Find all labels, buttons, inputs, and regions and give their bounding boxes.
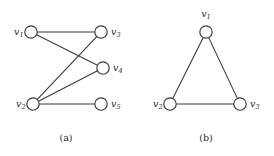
node-label-v2: v2 bbox=[153, 98, 163, 111]
graph-a: v1v2v3v4v5(a) bbox=[14, 26, 123, 143]
node-label-v1: v1 bbox=[201, 8, 211, 21]
edge-v1-v4 bbox=[37, 35, 98, 65]
node-label-v4: v4 bbox=[113, 62, 123, 75]
graph-b: v1v2v3(b) bbox=[153, 8, 260, 143]
node-v3 bbox=[95, 26, 107, 38]
node-label-v2: v2 bbox=[16, 98, 26, 111]
node-v5 bbox=[95, 98, 107, 110]
node-v2 bbox=[27, 98, 39, 110]
edge-v1-v2 bbox=[173, 38, 203, 99]
node-label-v3: v3 bbox=[111, 26, 121, 39]
node-v1 bbox=[200, 26, 212, 38]
figure-canvas: v1v2v3v4v5(a)v1v2v3(b) bbox=[0, 0, 274, 156]
edge-v2-v3 bbox=[37, 37, 96, 100]
edge-v1-v3 bbox=[209, 38, 238, 99]
graph-a-edge-layer bbox=[37, 32, 98, 104]
node-v1 bbox=[25, 26, 37, 38]
graph-figure: v1v2v3v4v5(a)v1v2v3(b) bbox=[0, 0, 274, 156]
graph-b-edge-layer bbox=[173, 38, 238, 104]
node-label-v5: v5 bbox=[111, 98, 121, 111]
graph-b-caption: (b) bbox=[199, 132, 213, 143]
node-label-v3: v3 bbox=[250, 98, 260, 111]
node-v3 bbox=[234, 98, 246, 110]
node-label-v1: v1 bbox=[14, 26, 24, 39]
graph-a-caption: (a) bbox=[59, 132, 72, 143]
node-v2 bbox=[164, 98, 176, 110]
edge-v2-v4 bbox=[39, 71, 98, 101]
node-v4 bbox=[97, 62, 109, 74]
